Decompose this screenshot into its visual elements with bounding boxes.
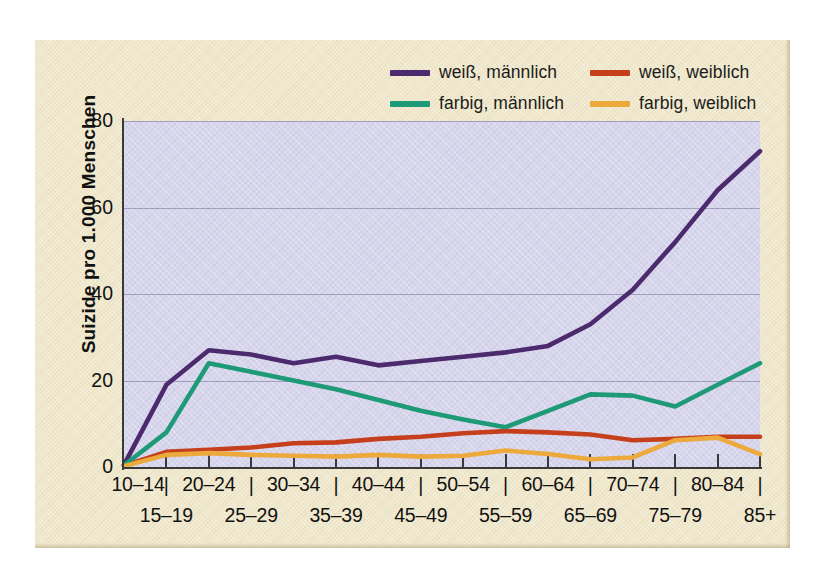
x-axis-label-separator: | bbox=[757, 474, 762, 497]
x-axis-label: 30–34 bbox=[267, 473, 320, 496]
x-axis-label: 10–14 bbox=[111, 473, 164, 496]
x-axis-line bbox=[122, 467, 762, 469]
x-axis-label: 40–44 bbox=[352, 473, 405, 496]
line-chart: Suizide pro 1.000 Menschen 020406080 10–… bbox=[35, 40, 790, 548]
y-axis-tick-label: 20 bbox=[91, 371, 113, 391]
x-axis-label: 65–69 bbox=[564, 504, 617, 527]
x-axis-label: 55–59 bbox=[479, 504, 532, 527]
y-axis-tick-label: 40 bbox=[91, 284, 113, 304]
series-lines bbox=[124, 121, 760, 467]
x-axis-label: 80–84 bbox=[691, 473, 744, 496]
x-axis-label: 85+ bbox=[744, 504, 776, 527]
series-line bbox=[124, 151, 760, 465]
x-axis-label: 45–49 bbox=[394, 504, 447, 527]
x-axis-label: 15–19 bbox=[140, 504, 193, 527]
x-axis-label: 75–79 bbox=[649, 504, 702, 527]
x-axis-label-separator: | bbox=[249, 474, 254, 497]
chart-card: weiß, männlich weiß, weiblich farbig, mä… bbox=[35, 40, 790, 548]
x-axis-label: 50–54 bbox=[437, 473, 490, 496]
x-axis-label: 70–74 bbox=[606, 473, 659, 496]
series-line bbox=[124, 431, 760, 466]
x-axis-label-separator: | bbox=[673, 474, 678, 497]
x-axis-label-separator: | bbox=[503, 474, 508, 497]
y-axis-line bbox=[122, 118, 124, 470]
x-axis-label-separator: | bbox=[588, 474, 593, 497]
y-axis-tick-label: 60 bbox=[91, 198, 113, 218]
screenshot-root: weiß, männlich weiß, weiblich farbig, mä… bbox=[0, 0, 823, 580]
x-axis-label-separator: | bbox=[333, 474, 338, 497]
x-axis-labels: 10–1415–1920–2425–2930–3435–3940–4445–49… bbox=[35, 473, 790, 543]
x-axis-label-separator: | bbox=[164, 474, 169, 497]
x-axis-label: 35–39 bbox=[309, 504, 362, 527]
plot-area bbox=[124, 121, 760, 467]
series-line bbox=[124, 438, 760, 467]
y-axis-ticks: 020406080 bbox=[35, 40, 122, 548]
x-axis-label: 60–64 bbox=[521, 473, 574, 496]
x-axis-label: 25–29 bbox=[225, 504, 278, 527]
x-axis-label: 20–24 bbox=[182, 473, 235, 496]
y-axis-tick-label: 80 bbox=[91, 111, 113, 131]
x-axis-label-separator: | bbox=[418, 474, 423, 497]
